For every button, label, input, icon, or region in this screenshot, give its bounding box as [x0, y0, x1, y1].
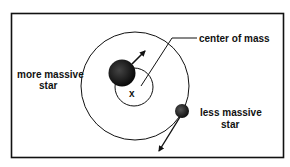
less-massive-star-orbit	[81, 32, 189, 140]
center-of-mass-marker: x	[129, 88, 135, 99]
more-massive-star	[109, 60, 136, 87]
less-massive-star	[175, 104, 189, 118]
label-more-massive-line2: star	[39, 80, 57, 91]
label-center-of-mass: center of mass	[199, 33, 270, 44]
more-massive-star-velocity-arrow	[132, 51, 145, 64]
binary-star-diagram: x center of mass more massive star less …	[0, 0, 290, 167]
label-less-massive-line2: star	[221, 119, 239, 130]
less-massive-star-velocity-arrow	[159, 117, 180, 151]
label-more-massive-line1: more massive	[17, 69, 84, 80]
label-less-massive-line1: less massive	[200, 107, 262, 118]
